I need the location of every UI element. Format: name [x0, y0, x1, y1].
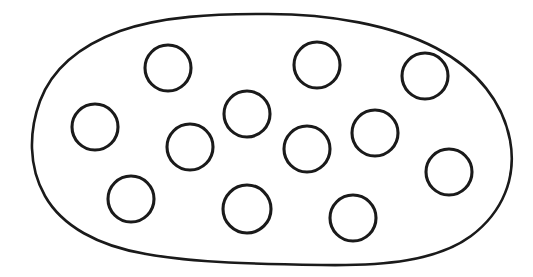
element-circle-top-left-inner	[145, 45, 191, 91]
element-circle-top-right	[402, 53, 448, 99]
element-circle-center-upper	[224, 91, 270, 137]
element-circle-left-middle	[72, 104, 118, 150]
element-circle-bottom-center	[223, 185, 271, 233]
diagram-svg	[0, 0, 533, 277]
element-circle-bottom-left	[108, 176, 154, 222]
element-circle-right-middle-upper	[352, 110, 398, 156]
element-circle-left-center	[167, 124, 213, 170]
diagram-canvas	[0, 0, 533, 277]
element-circle-far-right-lower	[426, 149, 472, 195]
element-circle-center-lower	[284, 126, 330, 172]
element-circle-bottom-right	[330, 195, 376, 241]
element-circle-top-center-right	[294, 42, 340, 88]
